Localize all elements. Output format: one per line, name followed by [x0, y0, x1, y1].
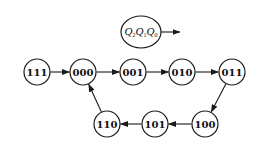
edge-110-to-000 — [89, 84, 102, 111]
legend-ellipse — [121, 16, 161, 48]
legend — [121, 16, 180, 48]
edge-011-to-100 — [211, 84, 226, 112]
state-node-100 — [192, 111, 218, 137]
state-node-000 — [70, 59, 96, 85]
state-node-011 — [219, 59, 245, 85]
state-node-110 — [94, 111, 120, 137]
state-node-111 — [24, 59, 50, 85]
diagram-canvas — [0, 0, 259, 149]
state-diagram: Q2Q1Q0111000001010011100101110 — [0, 0, 259, 149]
state-node-001 — [120, 59, 146, 85]
state-node-010 — [169, 59, 195, 85]
state-node-101 — [142, 111, 168, 137]
nodes-layer — [24, 59, 245, 137]
